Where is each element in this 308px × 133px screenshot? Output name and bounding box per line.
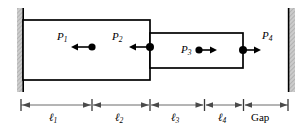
dimension-label-l4: ℓ4 (218, 112, 226, 123)
dim-head-l4-right (235, 102, 243, 108)
left-wall-hatch (17, 8, 23, 92)
force-label-p2: P2 (112, 31, 122, 42)
dimension-line-group (21, 99, 288, 111)
dimension-label-l2: ℓ2 (115, 112, 123, 123)
force-label-p4-symbol: P (262, 29, 269, 41)
dimension-label-l3: ℓ3 (171, 112, 179, 123)
dim-head-l3-right (196, 102, 204, 108)
force-label-p1: P1 (57, 31, 67, 42)
force-label-p4: P4 (262, 30, 272, 41)
p3-dot (195, 46, 202, 53)
force-label-p3: P3 (181, 44, 191, 55)
dimension-label-l1-subscript: 1 (54, 116, 58, 125)
dimension-label-l2-subscript: 2 (120, 116, 124, 125)
force-marker-p4 (239, 46, 261, 54)
dimension-label-l4-symbol: ℓ (218, 111, 223, 123)
force-label-p4-subscript: 4 (269, 34, 273, 43)
dim-head-l4-left (206, 102, 214, 108)
force-label-p1-subscript: 1 (64, 35, 68, 44)
force-label-p2-symbol: P (112, 30, 119, 42)
dimension-label-l3-symbol: ℓ (171, 111, 176, 123)
figure-canvas: P1 P2 P3 P4 ℓ1 ℓ2 ℓ3 ℓ4 Gap (0, 0, 308, 133)
p4-arrow-head (254, 47, 261, 54)
dim-head-l1-left (22, 102, 30, 108)
outer-block (23, 20, 150, 80)
outer-block-rect (23, 20, 150, 80)
dim-head-gap-right (280, 102, 288, 108)
dimension-label-l2-symbol: ℓ (115, 111, 120, 123)
p4-dot (239, 46, 247, 54)
force-label-p3-subscript: 3 (188, 48, 192, 57)
force-label-p2-subscript: 2 (119, 35, 123, 44)
dimension-label-gap: Gap (251, 112, 269, 123)
dim-head-l2-right (141, 102, 149, 108)
dimension-label-l3-subscript: 3 (176, 116, 180, 125)
dim-head-l3-left (151, 102, 159, 108)
dim-head-gap-left (245, 102, 253, 108)
right-wall-hatch (289, 8, 295, 92)
dimension-label-l1-symbol: ℓ (49, 111, 54, 123)
dim-head-l1-right (83, 102, 91, 108)
p2-dot (146, 43, 154, 51)
dim-head-l2-left (93, 102, 101, 108)
dimension-label-l4-subscript: 4 (223, 116, 227, 125)
dimension-label-l1: ℓ1 (49, 112, 57, 123)
p1-dot (88, 43, 95, 50)
force-label-p3-symbol: P (181, 43, 188, 55)
force-label-p1-symbol: P (57, 30, 64, 42)
right-wall (289, 8, 295, 92)
